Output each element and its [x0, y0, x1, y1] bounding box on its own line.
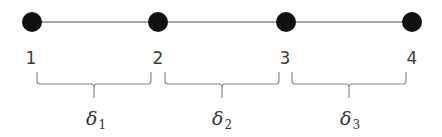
- delta-symbol: δ: [86, 107, 97, 129]
- segment-label-delta-3: δ3: [340, 109, 360, 131]
- delta-symbol: δ: [212, 107, 223, 129]
- delta-subscript: 2: [224, 118, 232, 132]
- brace-3: [292, 72, 406, 98]
- node-label-2: 2: [153, 50, 164, 67]
- node-4-dot: [402, 12, 422, 32]
- brace-1: [37, 72, 151, 98]
- node-label-3: 3: [280, 50, 291, 67]
- segment-label-delta-1: δ1: [86, 109, 106, 131]
- node-label-1: 1: [26, 50, 37, 67]
- delta-symbol: δ: [340, 107, 351, 129]
- delta-subscript: 3: [352, 118, 360, 132]
- delta-subscript: 1: [98, 118, 106, 132]
- node-1-dot: [22, 12, 42, 32]
- node-3-dot: [276, 12, 296, 32]
- brace-2: [165, 72, 279, 98]
- node-2-dot: [148, 12, 168, 32]
- segment-label-delta-2: δ2: [212, 109, 232, 131]
- node-label-4: 4: [407, 50, 418, 67]
- segment-braces: [37, 72, 406, 98]
